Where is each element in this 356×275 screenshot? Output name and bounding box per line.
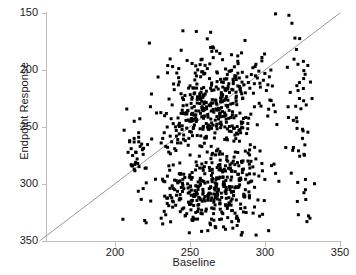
scatter-point bbox=[203, 182, 206, 185]
scatter-point bbox=[299, 107, 302, 110]
scatter-point bbox=[194, 184, 197, 187]
scatter-point bbox=[210, 84, 213, 87]
scatter-point bbox=[189, 208, 192, 211]
scatter-point bbox=[181, 124, 184, 127]
scatter-point bbox=[236, 161, 239, 164]
scatter-point bbox=[198, 155, 201, 158]
scatter-point bbox=[297, 89, 300, 92]
scatter-point bbox=[224, 179, 227, 182]
scatter-point bbox=[193, 78, 196, 81]
scatter-point bbox=[263, 72, 266, 75]
scatter-point bbox=[195, 199, 198, 202]
scatter-point bbox=[164, 213, 167, 216]
scatter-point bbox=[184, 214, 187, 217]
scatter-point bbox=[196, 218, 199, 221]
scatter-point bbox=[142, 187, 145, 190]
scatter-point bbox=[211, 152, 214, 155]
scatter-point bbox=[191, 62, 194, 65]
scatter-plot-figure: Endpoint Response Baseline 3503002502001… bbox=[0, 0, 356, 275]
scatter-point bbox=[219, 208, 222, 211]
scatter-point bbox=[296, 63, 299, 66]
scatter-point bbox=[160, 141, 163, 144]
scatter-point bbox=[173, 188, 176, 191]
scatter-point bbox=[231, 227, 234, 230]
scatter-point bbox=[222, 225, 225, 228]
scatter-point bbox=[284, 146, 287, 149]
scatter-point bbox=[227, 82, 230, 85]
scatter-point bbox=[161, 222, 164, 225]
scatter-point bbox=[187, 137, 190, 140]
scatter-point bbox=[274, 110, 277, 113]
scatter-point bbox=[180, 92, 183, 95]
scatter-point bbox=[237, 164, 240, 167]
scatter-point bbox=[192, 114, 195, 117]
scatter-point bbox=[175, 135, 178, 138]
scatter-point bbox=[302, 77, 305, 80]
scatter-point bbox=[234, 114, 237, 117]
scatter-point bbox=[199, 184, 202, 187]
scatter-point bbox=[220, 192, 223, 195]
scatter-point bbox=[225, 121, 228, 124]
scatter-point bbox=[240, 51, 243, 54]
scatter-point bbox=[219, 78, 222, 81]
scatter-point bbox=[202, 86, 205, 89]
scatter-point bbox=[225, 197, 228, 200]
scatter-point bbox=[293, 37, 296, 40]
scatter-point bbox=[172, 82, 175, 85]
scatter-point bbox=[203, 172, 206, 175]
scatter-point bbox=[219, 115, 222, 118]
scatter-point bbox=[207, 116, 210, 119]
scatter-point bbox=[226, 176, 229, 179]
scatter-point bbox=[250, 180, 253, 183]
scatter-point bbox=[292, 146, 295, 149]
scatter-point bbox=[236, 60, 239, 63]
scatter-point bbox=[199, 127, 202, 130]
scatter-point bbox=[224, 67, 227, 70]
scatter-point bbox=[223, 125, 226, 128]
scatter-point bbox=[240, 122, 243, 125]
scatter-point bbox=[213, 137, 216, 140]
scatter-point bbox=[177, 83, 180, 86]
scatter-point bbox=[213, 131, 216, 134]
scatter-point bbox=[168, 169, 171, 172]
scatter-point bbox=[204, 107, 207, 110]
scatter-point bbox=[261, 169, 264, 172]
scatter-point bbox=[160, 217, 163, 220]
scatter-point bbox=[171, 206, 174, 209]
scatter-point bbox=[296, 120, 299, 123]
scatter-point bbox=[170, 117, 173, 120]
scatter-point bbox=[226, 73, 229, 76]
scatter-point bbox=[217, 88, 220, 91]
scatter-point bbox=[188, 176, 191, 179]
scatter-point bbox=[226, 105, 229, 108]
scatter-point bbox=[169, 135, 172, 138]
scatter-point bbox=[248, 194, 251, 197]
scatter-point bbox=[212, 88, 215, 91]
scatter-point bbox=[254, 74, 257, 77]
scatter-point bbox=[179, 173, 182, 176]
scatter-point bbox=[232, 82, 235, 85]
scatter-point bbox=[178, 125, 181, 128]
scatter-point bbox=[219, 159, 222, 162]
scatter-point bbox=[195, 87, 198, 90]
scatter-point bbox=[215, 70, 218, 73]
scatter-point bbox=[135, 151, 138, 154]
scatter-point bbox=[150, 93, 153, 96]
scatter-point bbox=[210, 207, 213, 210]
scatter-point bbox=[253, 82, 256, 85]
scatter-point bbox=[191, 119, 194, 122]
scatter-point bbox=[225, 188, 228, 191]
scatter-point bbox=[229, 103, 232, 106]
scatter-point bbox=[121, 218, 124, 221]
scatter-point bbox=[194, 194, 197, 197]
scatter-point bbox=[182, 104, 185, 107]
scatter-point bbox=[302, 69, 305, 72]
scatter-point bbox=[189, 84, 192, 87]
scatter-point bbox=[217, 164, 220, 167]
scatter-point bbox=[195, 164, 198, 167]
scatter-point bbox=[221, 175, 224, 178]
scatter-point bbox=[226, 138, 229, 141]
scatter-point bbox=[251, 165, 254, 168]
scatter-point bbox=[211, 177, 214, 180]
scatter-point bbox=[263, 199, 266, 202]
